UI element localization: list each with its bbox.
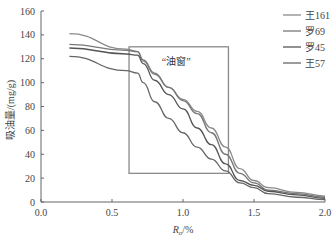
x-tick-label: 1.5 (248, 207, 261, 218)
x-axis-title: Ro/% (172, 224, 194, 237)
y-tick-label: 60 (25, 125, 35, 136)
series-line (69, 48, 325, 198)
series-lines (69, 34, 325, 200)
legend-label: 罗69 (305, 26, 325, 37)
y-tick-label: 120 (20, 53, 35, 64)
x-tick-label: 0.5 (106, 207, 119, 218)
legend-label: 罗45 (305, 42, 325, 53)
legend-label: 王161 (305, 10, 330, 21)
y-tick-label: 80 (25, 101, 35, 112)
x-tick-label: 0.0 (35, 207, 48, 218)
x-tick-label: 2.0 (319, 207, 332, 218)
legend: 王161罗69罗45王57 (283, 10, 330, 69)
y-tick-label: 20 (25, 173, 35, 184)
y-tick-label: 40 (25, 149, 35, 160)
y-tick-label: 160 (20, 6, 35, 17)
x-tick-label: 1.0 (177, 207, 190, 218)
y-tick-label: 140 (20, 29, 35, 40)
series-line (69, 34, 325, 196)
axes: 0204060801001201401600.00.51.01.52.0 (20, 6, 331, 219)
oil-window-chart: 0204060801001201401600.00.51.01.52.0 王16… (0, 0, 335, 240)
legend-label: 王57 (305, 58, 325, 69)
y-tick-label: 0 (30, 197, 35, 208)
y-axis-title: 吸油量/(mg/g) (4, 80, 17, 140)
y-tick-label: 100 (20, 77, 35, 88)
oil-window-label: “油窗” (162, 55, 191, 67)
